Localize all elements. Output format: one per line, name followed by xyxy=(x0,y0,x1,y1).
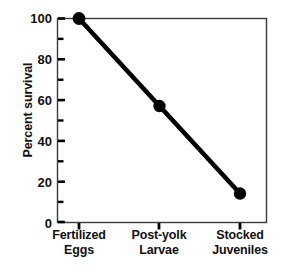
y-tick-label: 80 xyxy=(18,53,52,66)
y-tick-label: 60 xyxy=(18,94,52,107)
data-point-marker xyxy=(153,100,165,112)
chart-figure: Percent survival 100 80 60 40 20 0 xyxy=(0,0,285,276)
x-tick-label-line1: Post-yolk xyxy=(132,228,187,242)
x-axis-tick-labels: Fertilized Eggs Post-yolk Larvae Stocked… xyxy=(0,228,285,276)
x-tick-label-line1: Stocked xyxy=(216,228,264,242)
data-point-marker xyxy=(234,187,246,199)
x-tick-label-stocked-juveniles: Stocked Juveniles xyxy=(190,228,285,259)
y-tick-label: 20 xyxy=(18,176,52,189)
x-tick-label-line2: Juveniles xyxy=(190,243,285,258)
data-point-marker xyxy=(73,12,86,25)
x-tick-label-line1: Fertilized xyxy=(52,228,105,242)
y-tick-label: 40 xyxy=(18,135,52,148)
y-tick-label: 100 xyxy=(18,12,52,25)
